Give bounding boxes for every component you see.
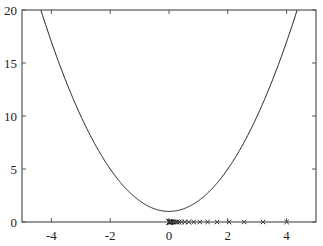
axis-ticks — [22, 10, 316, 222]
y-tick-label: 10 — [4, 109, 17, 124]
y-tick-label: 15 — [4, 56, 17, 71]
x-tick-label: -4 — [46, 228, 57, 243]
y-tick-label: 5 — [11, 162, 18, 177]
x-tick-label: -2 — [105, 228, 116, 243]
y-tick-label: 20 — [4, 3, 17, 18]
plot-frame — [22, 10, 316, 222]
x-tick-label: 0 — [166, 228, 173, 243]
y-tick-label: 0 — [11, 215, 18, 230]
chart: 05101520 -4-2024 — [0, 0, 323, 246]
x-tick-label: 4 — [283, 228, 290, 243]
function-curve — [41, 10, 297, 211]
y-axis-tick-labels: 05101520 — [4, 3, 17, 230]
x-axis-tick-labels: -4-2024 — [46, 228, 290, 243]
x-tick-label: 2 — [225, 228, 232, 243]
